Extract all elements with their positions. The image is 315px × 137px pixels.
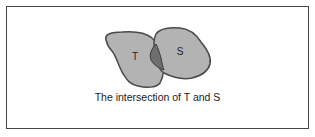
set-s-label: S xyxy=(177,46,184,57)
set-t-label: T xyxy=(132,51,138,62)
venn-diagram: T S xyxy=(0,0,315,137)
diagram-caption: The intersection of T and S xyxy=(0,91,315,103)
